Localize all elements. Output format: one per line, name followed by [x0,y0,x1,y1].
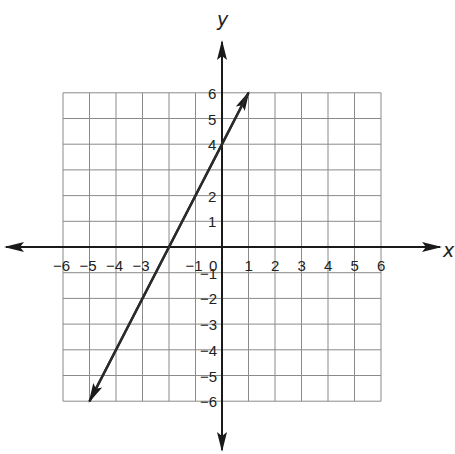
x-tick-label: −6 [53,257,70,274]
y-tick-label: 6 [208,85,216,102]
x-tick-label: 3 [298,257,306,274]
x-tick-label: 1 [245,257,253,274]
y-tick-label: −3 [200,316,217,333]
x-tick-label: 4 [324,257,332,274]
y-tick-label: 1 [208,213,216,230]
x-tick-label: −5 [80,257,97,274]
x-tick-label: −3 [133,257,150,274]
coordinate-plane: −6−5−4−3−1012345665421−1−2−3−4−5−6 x y [0,0,455,454]
y-tick-label: 5 [208,111,216,128]
y-tick-label: 2 [208,188,216,205]
x-tick-label: −4 [106,257,123,274]
axes [6,42,440,450]
y-tick-label: −4 [200,342,217,359]
y-tick-label: −5 [200,368,217,385]
x-tick-label: 2 [271,257,279,274]
y-axis-label: y [216,8,229,30]
x-tick-label: 6 [377,257,385,274]
y-tick-label: −2 [200,290,217,307]
y-tick-label: −6 [200,393,217,410]
y-tick-label: −1 [200,265,217,282]
y-tick-label: 4 [208,136,216,153]
x-tick-label: 5 [351,257,359,274]
x-axis-label: x [442,239,455,261]
